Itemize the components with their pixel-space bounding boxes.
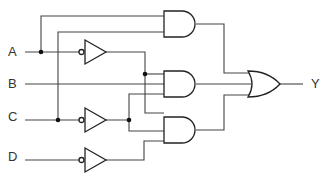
wire-not2-to-and2 [129,94,164,120]
junction-dot [56,118,61,123]
not-gate-2 [79,108,106,132]
wire-not1-out [106,52,164,113]
junction-dot [143,72,148,77]
wire-not2-out [106,120,164,131]
or-gate [248,71,280,97]
and-gate-3 [164,117,195,143]
input-label-c: C [8,109,17,124]
input-label-a: A [8,44,17,59]
wire-c-to-and1 [58,32,164,120]
junction-dot [127,118,132,123]
logic-circuit-diagram: A B C D Y [0,0,328,182]
wire-not3-out [106,141,164,160]
input-label-d: D [8,149,17,164]
junction-dot [39,50,44,55]
and-gate-1 [164,11,195,37]
output-label-y: Y [311,76,320,91]
wire-and3-out [196,95,250,130]
input-label-b: B [8,76,17,91]
wire-and1-out [196,24,250,73]
not-gate-3 [79,148,106,172]
and-gate-2 [164,71,195,97]
not-gate-1 [79,40,106,64]
wire-a-to-and1 [41,16,164,52]
